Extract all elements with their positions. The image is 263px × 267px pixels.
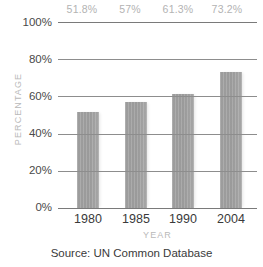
bar-2004: [220, 72, 242, 208]
y-axis-title: PERCENTAGE: [13, 59, 23, 159]
plot-area: [58, 22, 257, 208]
data-label-1985: 57%: [106, 2, 154, 16]
gridline-60: [58, 96, 257, 97]
x-tick-label-2004: 2004: [207, 211, 255, 227]
gridline-0: [58, 208, 257, 209]
data-label-1990: 61.3%: [154, 2, 202, 16]
y-tick-label-0: 0%: [8, 201, 52, 213]
data-label-row: 51.8% 57% 61.3% 73.2%: [58, 2, 257, 18]
data-label-1980: 51.8%: [58, 2, 106, 16]
data-label-2004: 73.2%: [203, 2, 251, 16]
y-tick-label-20: 20%: [8, 164, 52, 176]
y-tick-label-60: 60%: [8, 90, 52, 102]
bar-1980: [77, 112, 99, 208]
x-tick-label-1985: 1985: [112, 211, 160, 227]
x-axis-tick-row: 1980 1985 1990 2004: [58, 211, 257, 229]
bar-chart: 51.8% 57% 61.3% 73.2% PERCENTAGE 100% 80…: [0, 0, 263, 267]
y-tick-label-80: 80%: [8, 53, 52, 65]
source-note: Source: UN Common Database: [0, 247, 263, 259]
bar-1985: [125, 102, 147, 208]
gridline-40: [58, 134, 257, 135]
x-axis-title: YEAR: [58, 230, 257, 240]
y-tick-label-100: 100%: [8, 16, 52, 28]
gridline-20: [58, 171, 257, 172]
y-tick-label-40: 40%: [8, 127, 52, 139]
gridline-100: [58, 22, 257, 23]
bar-1990: [172, 94, 194, 208]
gridline-80: [58, 59, 257, 60]
x-tick-label-1990: 1990: [159, 211, 207, 227]
x-tick-label-1980: 1980: [64, 211, 112, 227]
